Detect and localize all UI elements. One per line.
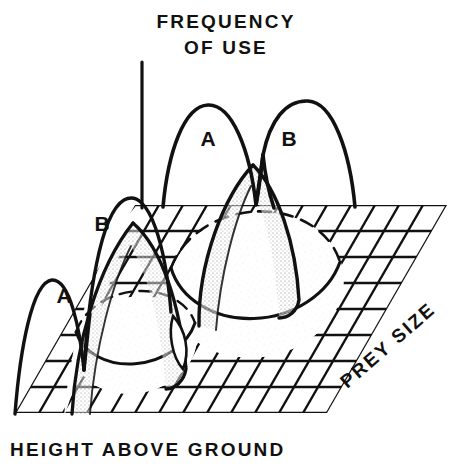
frequency-axis-label-line1: FREQUENCY: [156, 11, 295, 32]
side-curve-a-label: A: [56, 284, 71, 307]
niche-utilization-figure: FREQUENCY OF USE HEIGHT ABOVE GROUND PRE…: [0, 0, 454, 466]
frequency-axis-label-line2: OF USE: [184, 37, 268, 58]
height-above-ground-axis-label: HEIGHT ABOVE GROUND: [10, 439, 285, 460]
back-curve-b-label: B: [281, 127, 296, 150]
back-curve-a-label: A: [200, 127, 215, 150]
side-curve-b-label: B: [94, 212, 109, 235]
